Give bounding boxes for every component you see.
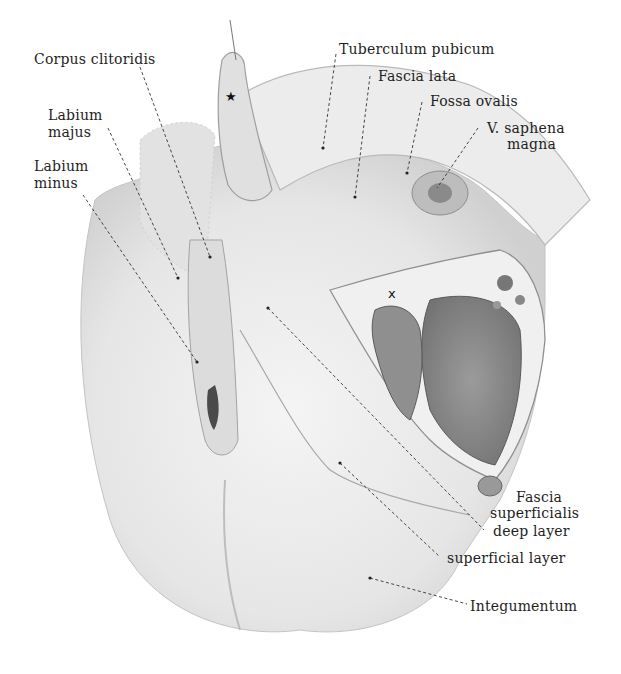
- label-fascia-superficialis-line1: Fascia: [516, 489, 562, 505]
- label-corpus-clitoridis: Corpus clitoridis: [34, 51, 156, 67]
- label-labium-majus-line1: Labium: [48, 107, 103, 123]
- label-fascia-superficialis-line2: superficialis: [490, 505, 579, 521]
- illustration: [0, 0, 621, 674]
- x-marker: x: [388, 286, 396, 301]
- label-labium-majus-line2: majus: [48, 124, 91, 140]
- label-v-saphena-line1: V. saphena: [487, 120, 565, 136]
- anatomical-figure: ★ x Corpus clitoridis Labium majus Labiu…: [0, 0, 621, 674]
- label-deep-layer: deep layer: [493, 523, 570, 539]
- label-fascia-lata: Fascia lata: [378, 68, 456, 84]
- label-tuberculum-pubicum: Tuberculum pubicum: [339, 41, 495, 57]
- label-labium-minus-line2: minus: [34, 175, 78, 191]
- label-superficial-layer: superficial layer: [447, 550, 566, 566]
- label-integumentum: Integumentum: [470, 598, 577, 614]
- label-labium-minus-line1: Labium: [34, 158, 89, 174]
- label-v-saphena-line2: magna: [507, 136, 556, 152]
- star-marker: ★: [225, 89, 237, 104]
- saphenous-vein: [428, 183, 452, 203]
- label-fossa-ovalis: Fossa ovalis: [430, 93, 518, 109]
